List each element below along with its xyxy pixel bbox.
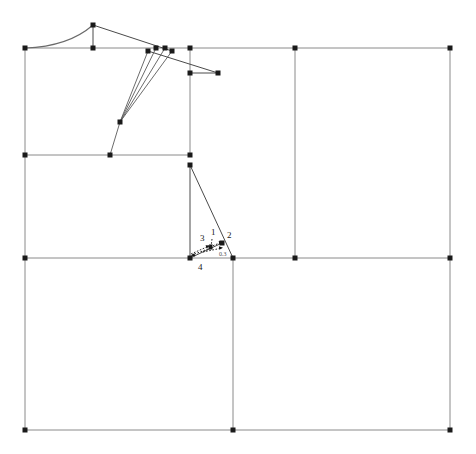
vertex-marker (188, 71, 193, 76)
dart-fan-group (110, 48, 172, 155)
vertex-marker (216, 71, 221, 76)
vertex-marker (23, 153, 28, 158)
vertex-marker (91, 23, 96, 28)
label-4: 4 (198, 262, 203, 272)
vertex-marker (23, 46, 28, 51)
vertex-marker (231, 256, 236, 261)
dart-fan-line-4 (120, 51, 172, 122)
label-3: 3 (200, 233, 205, 243)
label-0-3: 0.3 (219, 251, 227, 257)
label-1: 1 (211, 227, 216, 237)
pattern-drawing: 3 1 2 0.3 4 (0, 0, 476, 454)
dart-fan-line-3 (120, 48, 165, 122)
vertex-marker (23, 428, 28, 433)
label-group: 3 1 2 0.3 4 (198, 227, 232, 272)
vertex-marker (23, 256, 28, 261)
vertex-marker (231, 428, 236, 433)
vertex-marker (118, 120, 123, 125)
vertex-marker (108, 153, 113, 158)
frame-group (25, 48, 450, 430)
dimension-arrowhead-03 (219, 246, 223, 250)
shoulder-curve-group (25, 25, 172, 51)
vertex-marker (188, 163, 193, 168)
vertex-marker (188, 153, 193, 158)
vertex-marker (146, 49, 151, 54)
drawing-canvas: 3 1 2 0.3 4 (0, 0, 476, 454)
neckline-curve (25, 25, 93, 48)
vertex-group (23, 23, 453, 433)
vertex-marker (448, 428, 453, 433)
waist-dart-right-leg (190, 165, 233, 258)
vertex-marker (448, 256, 453, 261)
vertex-marker (188, 46, 193, 51)
vertex-marker (154, 46, 159, 51)
vertex-marker (220, 241, 225, 246)
shoulder-slope-line (93, 25, 172, 51)
dart-fan-line-1 (120, 51, 148, 122)
vertex-marker (293, 46, 298, 51)
vertex-marker (91, 46, 96, 51)
vertex-marker (170, 49, 175, 54)
vertex-marker (293, 256, 298, 261)
vertex-marker (163, 46, 168, 51)
label-2: 2 (227, 230, 232, 240)
dart-fan-tail (110, 122, 120, 155)
vertex-marker (448, 46, 453, 51)
vertex-marker (209, 246, 213, 250)
waist-dart-group (190, 165, 233, 258)
dart-fan-line-2 (120, 48, 156, 122)
vertex-marker (188, 256, 193, 261)
grid-group (25, 48, 450, 430)
